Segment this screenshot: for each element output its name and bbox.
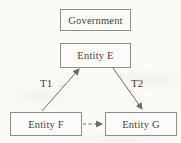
edge-t1-arrow (42, 69, 79, 111)
diagram-canvas: Government Entity E Entity F Entity G T1… (0, 0, 181, 143)
node-entity-f-label: Entity F (28, 119, 64, 130)
node-entity-f: Entity F (10, 112, 82, 136)
node-entity-g-label: Entity G (122, 119, 159, 130)
edge-label-t2: T2 (131, 77, 143, 89)
node-entity-e-label: Entity E (77, 50, 113, 61)
node-government-label: Government (68, 15, 123, 26)
node-entity-g: Entity G (105, 112, 177, 136)
node-government: Government (60, 9, 131, 31)
edge-label-t1: T1 (40, 77, 52, 89)
node-entity-e: Entity E (60, 43, 131, 68)
